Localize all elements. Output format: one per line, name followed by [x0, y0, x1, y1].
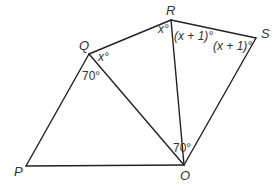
- angle-label-q-lower: 70°: [82, 69, 100, 83]
- angle-label-r-left: x°: [157, 22, 169, 36]
- edge-OP: [26, 165, 184, 166]
- vertex-label-s: S: [261, 26, 270, 41]
- vertex-label-o: O: [180, 168, 190, 183]
- vertex-label-q: Q: [79, 38, 89, 53]
- geometry-diagram: P Q R S O x° 70° x° (x + 1)° (x + 1)° 70…: [0, 0, 275, 188]
- angle-label-q-upper: x°: [97, 50, 109, 64]
- angle-label-r-right: (x + 1)°: [174, 29, 213, 43]
- angle-label-s: (x + 1)°: [213, 39, 252, 53]
- edge-QO: [89, 54, 184, 165]
- edge-PQ: [26, 54, 89, 166]
- vertex-label-r: R: [166, 3, 175, 18]
- vertex-label-p: P: [14, 164, 23, 179]
- edge-SO: [184, 38, 256, 165]
- angle-label-o: 70°: [173, 141, 191, 155]
